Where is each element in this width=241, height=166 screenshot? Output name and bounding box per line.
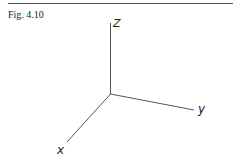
- y-axis: [111, 94, 195, 110]
- x-axis-label: x: [56, 143, 65, 157]
- z-axis-label: Z: [112, 17, 121, 30]
- y-axis-label: y: [197, 102, 206, 116]
- axes-diagram: Z y x: [0, 0, 241, 166]
- x-axis: [67, 94, 111, 142]
